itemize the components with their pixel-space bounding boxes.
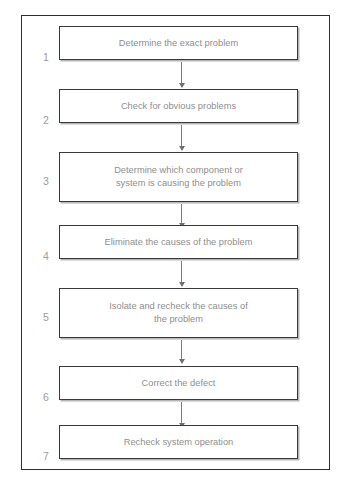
connector-arrow-1-to-2 [177, 62, 186, 88]
connector-shaft [181, 340, 182, 359]
step-number-2: 2 [37, 115, 55, 126]
step-number-6: 6 [37, 392, 55, 403]
step-box-4[interactable]: Eliminate the causes of the problem [59, 225, 298, 259]
step-box-6[interactable]: Correct the defect [59, 366, 298, 400]
step-label-1: Determine the exact problem [111, 37, 246, 50]
connector-arrow-2-to-3 [177, 125, 186, 151]
arrowhead-icon [179, 146, 185, 151]
arrowhead-icon [179, 282, 185, 287]
step-number-1: 1 [37, 52, 55, 63]
step-number-5: 5 [37, 312, 55, 323]
step-box-1[interactable]: Determine the exact problem [59, 26, 298, 60]
step-box-7[interactable]: Recheck system operation [59, 425, 298, 459]
step-label-4: Eliminate the causes of the problem [97, 236, 261, 249]
connector-shaft [181, 204, 182, 223]
step-label-6: Correct the defect [134, 377, 224, 390]
connector-shaft [181, 62, 182, 83]
step-label-7: Recheck system operation [116, 436, 242, 449]
arrowhead-icon [179, 359, 185, 364]
step-number-7: 7 [37, 451, 55, 462]
step-number-3: 3 [37, 176, 55, 187]
connector-shaft [181, 261, 182, 282]
step-number-4: 4 [37, 251, 55, 262]
step-box-2[interactable]: Check for obvious problems [59, 89, 298, 123]
step-label-2: Check for obvious problems [113, 100, 244, 113]
connector-arrow-5-to-6 [177, 340, 186, 364]
connector-shaft [181, 125, 182, 146]
step-box-3[interactable]: Determine which component or system is c… [59, 152, 298, 202]
step-label-3: Determine which component or system is c… [106, 164, 251, 190]
flowchart-frame: 1 Determine the exact problem 2 Check fo… [21, 15, 330, 470]
step-box-5[interactable]: Isolate and recheck the causes of the pr… [59, 288, 298, 338]
connector-shaft [181, 402, 182, 423]
connector-arrow-4-to-5 [177, 261, 186, 287]
arrowhead-icon [179, 83, 185, 88]
flowchart-canvas: 1 Determine the exact problem 2 Check fo… [0, 0, 344, 486]
step-label-5: Isolate and recheck the causes of the pr… [101, 300, 256, 326]
